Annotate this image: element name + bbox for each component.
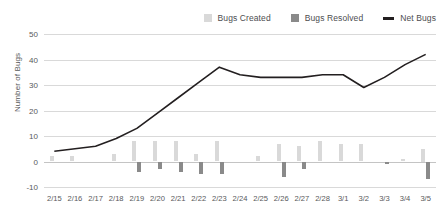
legend-line-net-bugs	[383, 17, 394, 20]
y-tick-label--10: -10	[26, 183, 38, 192]
gridline--10: -10	[44, 187, 436, 188]
x-tick-label-2-22: 2/22	[191, 194, 206, 203]
y-tick-label-50: 50	[29, 30, 38, 39]
legend-item-net-bugs[interactable]: Net Bugs	[383, 13, 436, 23]
net-bugs-line-series	[44, 34, 436, 187]
x-tick-label-2-27: 2/27	[295, 194, 310, 203]
x-tick-label-2-28: 2/28	[315, 194, 330, 203]
y-tick-label-10: 10	[29, 132, 38, 141]
x-tick-label-2-23: 2/23	[212, 194, 227, 203]
legend-item-bugs-created[interactable]: Bugs Created	[204, 13, 271, 23]
x-tick-label-2-21: 2/21	[171, 194, 186, 203]
x-tick-label-3-2: 3/2	[359, 194, 370, 203]
y-axis-title: Number of Bugs	[13, 38, 22, 128]
x-tick-label-2-18: 2/18	[109, 194, 124, 203]
y-tick-label-40: 40	[29, 55, 38, 64]
x-tick-label-2-15: 2/15	[47, 194, 62, 203]
x-tick-label-2-25: 2/25	[253, 194, 268, 203]
x-tick-label-3-3: 3/3	[379, 194, 390, 203]
legend-swatch-bugs-created	[204, 14, 212, 22]
bug-tracking-chart: Bugs Created Bugs Resolved Net Bugs Numb…	[0, 0, 444, 220]
chart-legend: Bugs Created Bugs Resolved Net Bugs	[0, 10, 444, 26]
x-tick-label-3-5: 3/5	[420, 194, 431, 203]
x-tick-label-3-1: 3/1	[338, 194, 349, 203]
x-tick-label-2-16: 2/16	[68, 194, 83, 203]
x-tick-label-2-17: 2/17	[88, 194, 103, 203]
x-tick-label-2-20: 2/20	[150, 194, 165, 203]
legend-item-bugs-resolved[interactable]: Bugs Resolved	[291, 13, 363, 23]
y-tick-label-0: 0	[34, 157, 38, 166]
net-bugs-polyline	[54, 54, 425, 151]
x-tick-label-2-26: 2/26	[274, 194, 289, 203]
y-tick-label-30: 30	[29, 81, 38, 90]
legend-swatch-bugs-resolved	[291, 14, 299, 22]
x-tick-label-2-24: 2/24	[233, 194, 248, 203]
legend-label-bugs-resolved: Bugs Resolved	[305, 13, 363, 23]
legend-label-bugs-created: Bugs Created	[218, 13, 271, 23]
x-tick-label-2-19: 2/19	[129, 194, 144, 203]
legend-label-net-bugs: Net Bugs	[400, 13, 436, 23]
plot-area: 50403020100-10 2/152/162/172/182/192/202…	[44, 34, 436, 187]
y-tick-label-20: 20	[29, 106, 38, 115]
x-tick-label-3-4: 3/4	[400, 194, 411, 203]
